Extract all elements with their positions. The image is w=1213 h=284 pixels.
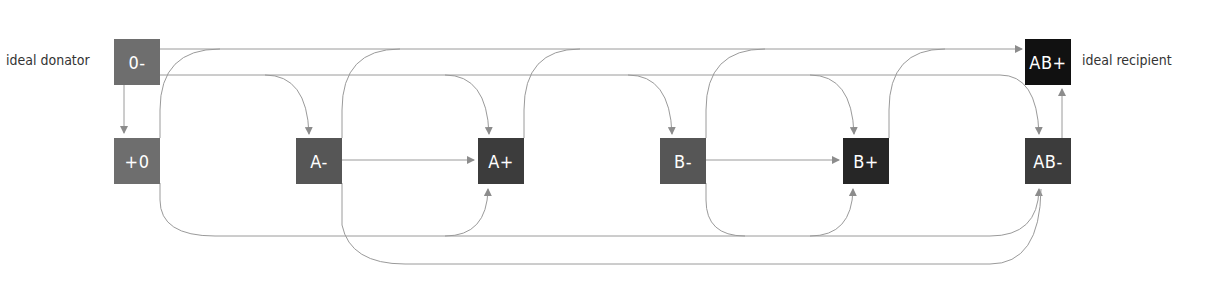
node-ab-positive: AB+ — [1025, 39, 1071, 85]
node-b-negative: B- — [660, 138, 706, 184]
node-b-positive: B+ — [843, 138, 889, 184]
node-o-negative: 0- — [114, 39, 160, 85]
node-a-positive: A+ — [478, 138, 524, 184]
ideal-recipient-label: ideal recipient — [1082, 52, 1172, 68]
node-a-negative: A- — [296, 138, 342, 184]
node-o-positive: +0 — [114, 138, 160, 184]
node-ab-negative: AB- — [1025, 138, 1071, 184]
ideal-donor-label: ideal donator — [6, 52, 90, 68]
